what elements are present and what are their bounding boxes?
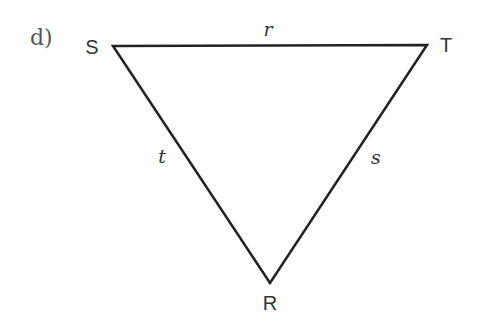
side-label-r: r — [263, 20, 272, 39]
vertex-label-t: T — [440, 35, 452, 55]
vertex-label-s: S — [85, 37, 98, 57]
side-label-t: t — [158, 147, 166, 166]
triangle-svg — [0, 0, 482, 335]
part-label: d) — [30, 27, 53, 49]
side-label-s: s — [371, 148, 381, 167]
vertex-label-r: R — [263, 293, 277, 313]
triangle-figure: d) S T R r t s — [0, 0, 482, 335]
